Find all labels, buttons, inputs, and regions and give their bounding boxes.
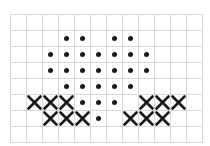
pattern-cell-dot[interactable] <box>75 31 90 46</box>
pattern-cell-dot[interactable] <box>59 31 74 46</box>
pattern-cell-cross[interactable] <box>155 111 170 126</box>
pattern-grid[interactable] <box>10 14 203 143</box>
pattern-cell-cross[interactable] <box>155 95 170 110</box>
pattern-cell-cross[interactable] <box>43 111 58 126</box>
pattern-cell-dot[interactable] <box>123 31 138 46</box>
pattern-cell-dot[interactable] <box>43 63 58 78</box>
pattern-cell-cross[interactable] <box>139 95 154 110</box>
pattern-cell-dot[interactable] <box>107 63 122 78</box>
pattern-cell-dot[interactable] <box>75 63 90 78</box>
pattern-cell-dot[interactable] <box>107 47 122 62</box>
pattern-cell-dot[interactable] <box>59 79 74 94</box>
pattern-cell-dot[interactable] <box>91 47 106 62</box>
grid-line-horizontal <box>10 142 203 143</box>
pattern-cell-cross[interactable] <box>139 111 154 126</box>
pattern-cell-cross[interactable] <box>59 111 74 126</box>
pattern-cell-cross[interactable] <box>123 111 138 126</box>
pattern-cell-dot[interactable] <box>91 79 106 94</box>
pattern-cell-cross[interactable] <box>27 95 42 110</box>
pattern-cell-dot[interactable] <box>91 111 106 126</box>
pattern-cell-dot[interactable] <box>139 63 154 78</box>
pattern-cell-dot[interactable] <box>75 47 90 62</box>
pattern-cell-dot[interactable] <box>123 63 138 78</box>
pattern-cell-dot[interactable] <box>123 47 138 62</box>
pattern-cell-dot[interactable] <box>59 47 74 62</box>
grid-line-horizontal <box>10 126 203 127</box>
pattern-cell-cross[interactable] <box>59 95 74 110</box>
grid-line-horizontal <box>10 110 203 111</box>
pattern-cell-dot[interactable] <box>107 31 122 46</box>
pattern-chart-canvas <box>0 0 210 146</box>
pattern-cell-dot[interactable] <box>59 63 74 78</box>
pattern-cell-dot[interactable] <box>123 79 138 94</box>
pattern-cell-cross[interactable] <box>75 111 90 126</box>
pattern-cell-dot[interactable] <box>107 79 122 94</box>
pattern-cell-dot[interactable] <box>91 95 106 110</box>
pattern-cell-cross[interactable] <box>171 95 186 110</box>
grid-line-horizontal <box>10 14 203 15</box>
pattern-cell-dot[interactable] <box>43 47 58 62</box>
pattern-cell-dot[interactable] <box>139 47 154 62</box>
pattern-cell-dot[interactable] <box>91 63 106 78</box>
pattern-cell-dot[interactable] <box>107 95 122 110</box>
pattern-cell-dot[interactable] <box>75 79 90 94</box>
pattern-cell-dot[interactable] <box>75 95 90 110</box>
pattern-cell-cross[interactable] <box>43 95 58 110</box>
